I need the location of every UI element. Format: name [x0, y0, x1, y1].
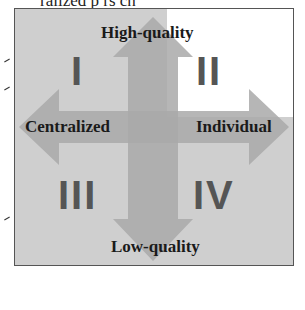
quadrant-label-i: I	[71, 49, 84, 94]
axis-label-right: Individual	[196, 117, 272, 137]
margin-mark	[4, 87, 10, 91]
axis-label-bottom: Low-quality	[111, 237, 200, 257]
margin-mark	[4, 59, 10, 63]
quadrant-label-ii: II	[196, 49, 222, 94]
margin-mark	[4, 217, 10, 221]
quadrant-diagram: High-quality Low-quality Centralized Ind…	[14, 8, 294, 266]
quadrant-label-iv: IV	[193, 173, 235, 218]
axis-label-top: High-quality	[101, 23, 194, 43]
axis-label-left: Centralized	[25, 117, 110, 137]
quadrant-label-iii: III	[58, 173, 97, 218]
axis-arrows	[15, 9, 293, 265]
